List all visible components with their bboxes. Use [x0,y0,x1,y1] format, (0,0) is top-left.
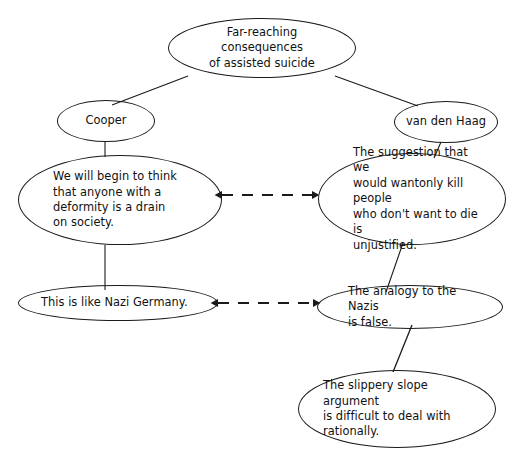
node-cooper-claim-1-label: We will begin to think that anyone with … [53,169,191,231]
node-haag-claim-2-label: The analogy to the Nazis is false. [348,284,490,330]
node-haag-claim-1-label: The suggestion that we would wantonly ki… [353,145,487,253]
diagram-canvas: Far-reaching consequences of assisted su… [0,0,513,454]
node-cooper[interactable]: Cooper [57,100,155,142]
node-haag-claim-1[interactable]: The suggestion that we would wantonly ki… [318,153,506,245]
node-cooper-claim-2[interactable]: This is like Nazi Germany. [18,285,218,321]
node-haag-claim-3[interactable]: The slippery slope argument is difficult… [298,370,496,448]
node-topic-label: Far-reaching consequences of assisted su… [187,25,337,71]
node-van-den-haag-label: van den Haag [403,114,489,129]
node-cooper-claim-2-label: This is like Nazi Germany. [41,295,201,310]
edge-haag-claim-2-claim-3 [393,325,412,372]
node-cooper-claim-1[interactable]: We will begin to think that anyone with … [18,155,222,245]
node-topic[interactable]: Far-reaching consequences of assisted su… [168,18,356,78]
node-van-den-haag[interactable]: van den Haag [394,101,498,143]
edge-topic-van-den-haag [335,76,418,106]
node-haag-claim-2[interactable]: The analogy to the Nazis is false. [317,285,503,329]
node-haag-claim-3-label: The slippery slope argument is difficult… [323,378,481,440]
node-cooper-label: Cooper [68,113,144,128]
